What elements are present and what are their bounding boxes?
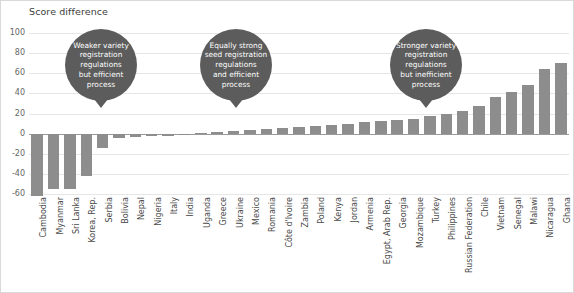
bar[interactable] — [211, 132, 222, 134]
y-axis-tick-label: 60 — [1, 68, 25, 77]
bar[interactable] — [408, 119, 419, 134]
x-axis-tick-label: Egypt, Arab Rep. — [384, 197, 392, 264]
bar[interactable] — [81, 134, 92, 176]
bar[interactable] — [342, 124, 353, 134]
bar[interactable] — [195, 133, 206, 134]
bar[interactable] — [375, 121, 386, 134]
annotation-line: regulations — [205, 60, 268, 70]
annotation-line: Equally strong — [205, 41, 268, 51]
x-axis-tick-label: Greece — [220, 197, 228, 225]
annotation-line: regulations — [396, 60, 456, 70]
bar[interactable] — [539, 69, 550, 133]
x-axis-tick-label: Nicaragua — [547, 197, 555, 238]
bar[interactable] — [146, 134, 157, 136]
x-axis-tick-label: Philippines — [449, 197, 457, 240]
bar[interactable] — [31, 134, 42, 196]
bar[interactable] — [179, 134, 190, 135]
bar[interactable] — [473, 106, 484, 133]
bar-slot — [176, 33, 192, 194]
bar[interactable] — [441, 114, 452, 134]
x-axis-tick-label: Uganda — [204, 197, 212, 228]
y-axis: 100806040200-20-40-60 — [1, 33, 25, 194]
bar[interactable] — [490, 97, 501, 133]
x-axis-tick-label: Malawi — [531, 197, 539, 225]
annotation-line: registration — [73, 50, 129, 60]
bar[interactable] — [293, 127, 304, 134]
bar[interactable] — [457, 111, 468, 133]
x-axis-tick-label: Romania — [269, 197, 277, 232]
bar[interactable] — [261, 129, 272, 134]
x-axis-tick-label: Chile — [482, 197, 490, 217]
bar-slot — [536, 33, 552, 194]
annotation-line: and efficient — [205, 70, 268, 80]
x-axis-tick-label: Myanmar — [57, 197, 65, 235]
y-axis-tick-label: 100 — [1, 28, 25, 37]
annotation-line: but inefficient — [396, 70, 456, 80]
bar[interactable] — [277, 128, 288, 134]
annotation-weaker-pointer-icon — [94, 99, 108, 108]
bar[interactable] — [64, 134, 75, 189]
annotation-line: process — [73, 80, 129, 90]
annotation-equal-pointer-icon — [229, 99, 243, 108]
x-axis-tick-label: Nigeria — [155, 197, 163, 226]
annotation-weaker-bubble: Weaker varietyregistrationregulationsbut… — [65, 29, 137, 101]
x-axis-tick-label: Jordan — [351, 197, 359, 222]
x-axis-tick-label: Armenia — [367, 197, 375, 231]
y-axis-tick-label: 0 — [1, 129, 25, 138]
bar-slot — [487, 33, 503, 194]
bar-slot — [324, 33, 340, 194]
x-axis-tick-label: India — [187, 197, 195, 217]
x-axis-tick-label: Bolivia — [122, 197, 130, 224]
chart-container: Score difference 100806040200-20-40-60 C… — [0, 0, 574, 293]
x-axis-tick-label: Georgia — [400, 197, 408, 228]
bar[interactable] — [162, 134, 173, 136]
bar-slot — [45, 33, 61, 194]
bar[interactable] — [48, 134, 59, 189]
annotation-line: registration — [396, 50, 456, 60]
x-axis-tick-label: Poland — [318, 197, 326, 224]
bar[interactable] — [244, 130, 255, 134]
bar[interactable] — [113, 134, 124, 138]
y-axis-tick-label: -20 — [1, 149, 25, 158]
bar[interactable] — [97, 134, 108, 148]
annotation-equal-bubble: Equally strongseed registrationregulatio… — [200, 29, 272, 101]
annotation-stronger: Stronger varietyregistrationregulationsb… — [390, 29, 462, 111]
bar[interactable] — [522, 85, 533, 133]
x-axis-tick-label: Vietnam — [498, 197, 506, 230]
annotation-line: Stronger variety — [396, 41, 456, 51]
y-axis-tick-label: 20 — [1, 109, 25, 118]
annotation-stronger-bubble: Stronger varietyregistrationregulationsb… — [390, 29, 462, 101]
x-axis-tick-label: Nepal — [138, 197, 146, 220]
bar[interactable] — [391, 120, 402, 134]
bar[interactable] — [130, 134, 141, 137]
x-axis-tick-label: Ghana — [564, 197, 572, 223]
x-axis-labels: CambodiaMyanmarSri LankaKorea, Rep.Serbi… — [29, 197, 569, 292]
bar-slot — [144, 33, 160, 194]
x-axis-tick-label: Turkey — [433, 197, 441, 223]
bar[interactable] — [228, 131, 239, 134]
bar-slot — [356, 33, 372, 194]
y-axis-tick-label: 40 — [1, 88, 25, 97]
x-axis-tick-label: Russian Federation — [466, 197, 474, 273]
bar-slot — [160, 33, 176, 194]
bar-slot — [504, 33, 520, 194]
bar-slot — [520, 33, 536, 194]
annotation-line: regulations — [73, 60, 129, 70]
bar[interactable] — [326, 125, 337, 134]
annotation-line: process — [205, 80, 268, 90]
bar[interactable] — [506, 92, 517, 133]
annotation-stronger-pointer-icon — [419, 99, 433, 108]
x-axis-tick-label: Sri Lanka — [73, 197, 81, 234]
bar-slot — [553, 33, 569, 194]
bar[interactable] — [555, 63, 566, 133]
annotation-line: but efficient — [73, 70, 129, 80]
x-axis-tick-label: Mozambique — [417, 197, 425, 248]
annotation-line: Weaker variety — [73, 41, 129, 51]
bar-slot — [307, 33, 323, 194]
bar[interactable] — [310, 126, 321, 134]
bar-slot — [340, 33, 356, 194]
bar[interactable] — [359, 122, 370, 134]
chart-title: Score difference — [29, 6, 108, 17]
bar[interactable] — [424, 116, 435, 134]
x-axis-tick-label: Côte d'Ivoire — [286, 197, 294, 248]
